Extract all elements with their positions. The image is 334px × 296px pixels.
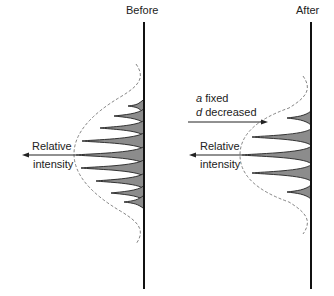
intensity-peak bbox=[124, 195, 144, 209]
intensity-peak bbox=[242, 146, 311, 164]
arrowhead-icon bbox=[189, 153, 196, 158]
before-panel bbox=[74, 22, 144, 289]
before-relative-label: Relative bbox=[32, 140, 72, 153]
intensity-peak bbox=[114, 109, 144, 123]
after-title: After bbox=[296, 4, 319, 17]
intensity-peak bbox=[287, 111, 311, 125]
arrowhead-icon bbox=[22, 153, 29, 158]
a-fixed-label: a fixed bbox=[196, 92, 228, 105]
after-panel bbox=[240, 22, 311, 289]
intensity-peak bbox=[82, 133, 144, 150]
d-decreased-label: d decreased bbox=[196, 106, 257, 119]
intensity-peak bbox=[96, 173, 144, 189]
intensity-peak bbox=[287, 185, 311, 199]
after-intensity-label: intensity bbox=[200, 158, 240, 171]
intensity-peak bbox=[81, 159, 144, 176]
intensity-peak bbox=[76, 146, 144, 163]
intensity-peak bbox=[100, 120, 144, 136]
a-fixed-text: fixed bbox=[202, 92, 228, 104]
before-intensity-label: intensity bbox=[33, 158, 73, 171]
after-relative-label: Relative bbox=[200, 140, 240, 153]
arrowhead-icon bbox=[261, 120, 268, 125]
d-decreased-text: decreased bbox=[202, 106, 256, 118]
intensity-peak bbox=[252, 165, 311, 182]
before-title: Before bbox=[126, 4, 158, 17]
intensity-peak bbox=[252, 129, 311, 146]
